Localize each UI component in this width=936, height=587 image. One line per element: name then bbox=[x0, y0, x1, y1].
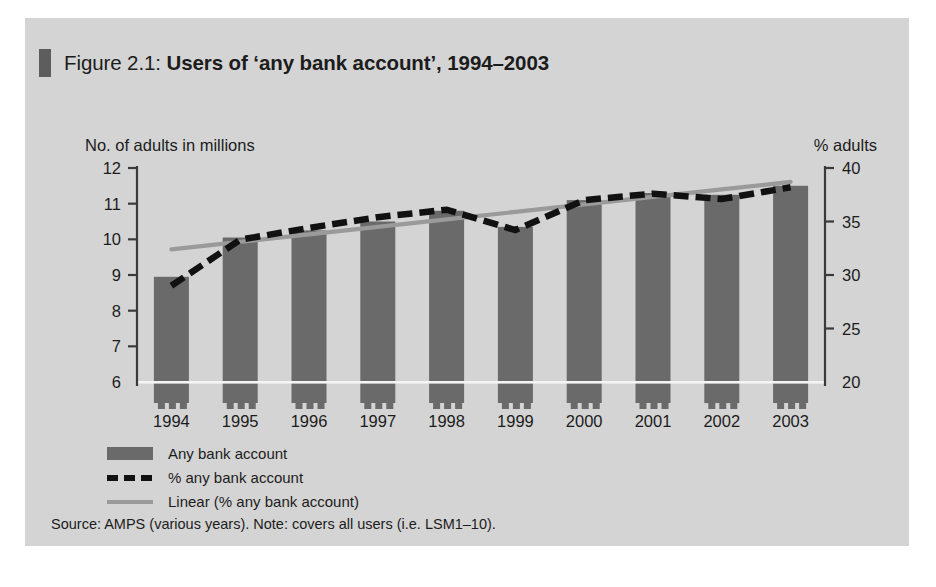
x-axis-label-1998: 1998 bbox=[428, 412, 465, 430]
x-axis-label-2001: 2001 bbox=[635, 412, 672, 430]
bar-foot-tab bbox=[571, 403, 578, 409]
legend-swatch-dashed-line-icon bbox=[107, 475, 153, 481]
legend-item-any-bank-account: Any bank account bbox=[107, 443, 359, 464]
chart-legend: Any bank account % any bank account Line… bbox=[107, 443, 359, 512]
bar-foot-tab bbox=[249, 403, 256, 409]
bar-foot-tab bbox=[651, 403, 658, 409]
bar-foot-tab bbox=[375, 403, 382, 409]
x-axis-label-1996: 1996 bbox=[291, 412, 328, 430]
left-axis-tick-label: 10 bbox=[103, 230, 121, 248]
bar-2001 bbox=[636, 193, 671, 403]
x-axis-label-2003: 2003 bbox=[772, 412, 809, 430]
right-axis-tick-label: 30 bbox=[842, 266, 860, 284]
baseline-strip bbox=[137, 381, 825, 384]
bar-1997 bbox=[360, 222, 395, 404]
figure-panel: Figure 2.1: Users of ‘any bank account’,… bbox=[25, 18, 909, 546]
bar-2002 bbox=[704, 195, 739, 403]
bar-foot-tab bbox=[318, 403, 325, 409]
bar-foot-tab bbox=[238, 403, 245, 409]
legend-swatch-bar-icon bbox=[107, 447, 153, 460]
bar-foot-tab bbox=[180, 403, 187, 409]
legend-label: Linear (% any bank account) bbox=[168, 493, 359, 510]
bar-foot-tab bbox=[158, 403, 165, 409]
bar-foot-tab bbox=[593, 403, 600, 409]
bar-foot-tab bbox=[662, 403, 669, 409]
bar-foot-tab bbox=[799, 403, 806, 409]
bar-foot-tab bbox=[788, 403, 795, 409]
x-axis-label-1999: 1999 bbox=[497, 412, 534, 430]
bar-foot-tab bbox=[307, 403, 314, 409]
bar-foot-tab bbox=[719, 403, 726, 409]
bar-foot-tab bbox=[296, 403, 303, 409]
x-axis-label-1995: 1995 bbox=[222, 412, 259, 430]
right-axis-tick-label: 40 bbox=[842, 159, 860, 177]
legend-label: Any bank account bbox=[168, 445, 287, 462]
bar-foot-tab bbox=[777, 403, 784, 409]
bar-foot-tab bbox=[513, 403, 520, 409]
bar-1998 bbox=[429, 211, 464, 403]
bar-2000 bbox=[567, 200, 602, 403]
left-axis-tick-label: 9 bbox=[112, 266, 121, 284]
bar-foot-tab bbox=[364, 403, 371, 409]
left-axis-tick-label: 12 bbox=[103, 159, 121, 177]
bar-foot-tab bbox=[524, 403, 531, 409]
bar-foot-tab bbox=[444, 403, 451, 409]
legend-swatch-solid-line-icon bbox=[107, 500, 153, 504]
bar-1995 bbox=[223, 238, 258, 404]
left-axis-tick-label: 7 bbox=[112, 337, 121, 355]
bar-foot-tab bbox=[227, 403, 234, 409]
bar-group bbox=[154, 186, 808, 409]
bar-foot-tab bbox=[730, 403, 737, 409]
bar-1994 bbox=[154, 277, 189, 403]
x-axis-label-1997: 1997 bbox=[359, 412, 396, 430]
legend-item-linear-trend: Linear (% any bank account) bbox=[107, 491, 359, 512]
bar-foot-tab bbox=[386, 403, 393, 409]
bar-foot-tab bbox=[708, 403, 715, 409]
legend-item-percent-any-bank-account: % any bank account bbox=[107, 467, 359, 488]
right-axis-tick-label: 20 bbox=[842, 373, 860, 391]
x-axis-label-1994: 1994 bbox=[153, 412, 190, 430]
left-axis-tick-label: 6 bbox=[112, 373, 121, 391]
x-axis-label-2002: 2002 bbox=[703, 412, 740, 430]
trend-line-linear bbox=[171, 182, 790, 249]
bar-1996 bbox=[292, 230, 327, 403]
bar-foot-tab bbox=[640, 403, 647, 409]
legend-label: % any bank account bbox=[168, 469, 303, 486]
bar-2003 bbox=[773, 186, 808, 403]
left-axis-tick-label: 8 bbox=[112, 302, 121, 320]
bar-foot-tab bbox=[455, 403, 462, 409]
bar-1999 bbox=[498, 227, 533, 403]
right-axis-tick-label: 25 bbox=[842, 320, 860, 338]
source-note: Source: AMPS (various years). Note: cove… bbox=[51, 516, 496, 532]
right-axis-tick-label: 35 bbox=[842, 213, 860, 231]
x-axis-label-2000: 2000 bbox=[566, 412, 603, 430]
bar-foot-tab bbox=[433, 403, 440, 409]
bar-foot-tab bbox=[169, 403, 176, 409]
bar-foot-tab bbox=[502, 403, 509, 409]
percent-dashed-line bbox=[171, 187, 790, 285]
bar-foot-tab bbox=[582, 403, 589, 409]
left-axis-tick-label: 11 bbox=[104, 195, 121, 213]
